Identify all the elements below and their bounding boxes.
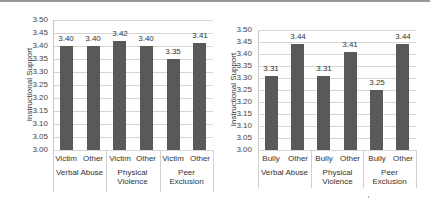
bar [265,76,278,150]
data-label: 3.31 [256,64,286,73]
gridline [258,90,416,91]
y-tick-label: 3.10 [222,121,252,130]
gridline [53,20,213,21]
bar [140,46,153,150]
y-tick-label: 3.15 [18,106,48,115]
bar [113,41,126,150]
category-label: Bully [256,154,286,163]
group-separator [213,150,214,192]
data-label: 3.25 [362,78,392,87]
bar [370,90,383,150]
data-label: 3.40 [51,34,81,43]
gridline [53,59,213,60]
category-label: Other [131,154,161,163]
y-tick-label: 3.10 [18,119,48,128]
category-label: Other [335,154,365,163]
y-tick-label: 3.20 [18,93,48,102]
gridline [258,126,416,127]
group-label: Physical Violence [106,168,159,186]
y-tick-label: 3.20 [222,97,252,106]
gridline [53,98,213,99]
group-label: Verbal Abuse [258,168,311,177]
bar [87,46,100,150]
y-tick-label: 3.00 [222,145,252,154]
y-tick-label: 3.05 [222,133,252,142]
gridline [53,137,213,138]
y-axis-line [258,30,259,150]
bar [317,76,330,150]
y-tick-label: 3.30 [222,73,252,82]
category-label: Other [185,154,215,163]
gridline [258,30,416,31]
bar [60,46,73,150]
y-tick-label: 3.00 [18,145,48,154]
y-tick-label: 3.40 [18,41,48,50]
y-tick-label: 3.40 [222,49,252,58]
gridline [258,138,416,139]
y-tick-label: 3.05 [18,132,48,141]
gridline [53,85,213,86]
group-label: Verbal Abuse [53,168,106,177]
y-tick-label: 3.35 [18,54,48,63]
group-separator [416,150,417,188]
artifact-dot [368,196,369,198]
y-tick-label: 3.35 [222,61,252,70]
category-label: Other [78,154,108,163]
category-label: Victim [158,154,188,163]
gridline [53,150,213,151]
y-tick-label: 3.45 [222,37,252,46]
data-label: 3.40 [131,34,161,43]
bar [291,44,304,150]
data-label: 3.44 [388,32,418,41]
gridline [258,78,416,79]
bar [193,43,206,150]
data-label: 3.41 [185,31,215,40]
y-tick-label: 3.50 [18,15,48,24]
data-label: 3.35 [158,47,188,56]
y-tick-label: 3.15 [222,109,252,118]
data-label: 3.41 [335,40,365,49]
y-tick-label: 3.50 [222,25,252,34]
gridline [258,102,416,103]
data-label: 3.31 [309,64,339,73]
top-border-line [0,0,430,2]
bar [167,59,180,150]
category-label: Victim [51,154,81,163]
y-tick-label: 3.25 [18,80,48,89]
bar [344,52,357,150]
data-label: 3.40 [78,34,108,43]
category-label: Other [388,154,418,163]
gridline [53,124,213,125]
group-label: Physical Violence [311,168,364,186]
group-label: Peer Exclusion [363,168,416,186]
bar [396,44,409,150]
y-tick-label: 3.45 [18,28,48,37]
gridline [53,72,213,73]
y-tick-label: 3.30 [18,67,48,76]
data-label: 3.44 [283,32,313,41]
group-label: Peer Exclusion [160,168,213,186]
gridline [53,111,213,112]
gridline [258,150,416,151]
y-tick-label: 3.25 [222,85,252,94]
gridline [258,54,416,55]
gridline [258,114,416,115]
gridline [53,46,213,47]
